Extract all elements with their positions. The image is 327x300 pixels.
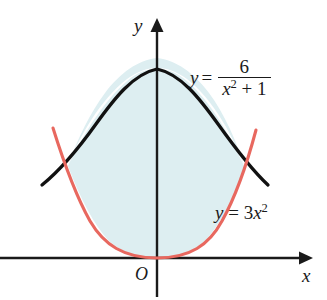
x-axis-arrowhead	[299, 252, 313, 265]
equation-lhs: y	[190, 68, 198, 87]
exponent: 2	[262, 201, 268, 215]
equation-label-parabola: y = 3x2	[215, 203, 268, 222]
denominator-rest: + 1	[237, 78, 267, 99]
equation-label-rational-curve: y = 6 x2 + 1	[190, 57, 271, 98]
equals-sign: =	[228, 202, 239, 223]
origin-label: O	[135, 265, 148, 283]
x-axis-label: x	[302, 266, 310, 285]
variable: x	[253, 202, 261, 223]
fraction-numerator: 6	[233, 57, 257, 77]
fraction-denominator: x2 + 1	[218, 78, 270, 98]
fraction: 6 x2 + 1	[218, 57, 270, 98]
equals-sign: =	[201, 68, 212, 87]
y-axis-label: y	[134, 16, 142, 35]
coefficient: 3	[244, 202, 254, 223]
denominator-variable: x	[222, 78, 230, 99]
y-axis-arrowhead	[151, 18, 164, 32]
equation-lhs: y	[215, 202, 223, 223]
graph-figure	[0, 0, 327, 300]
